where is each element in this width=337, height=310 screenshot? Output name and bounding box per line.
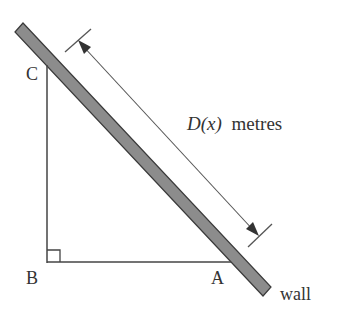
wall	[15, 23, 271, 296]
dimension-line	[82, 45, 255, 232]
ladder-wall-diagram: C B A wall D(x) metres	[0, 0, 337, 310]
label-wall: wall	[280, 284, 311, 304]
label-c: C	[26, 64, 38, 84]
label-a: A	[211, 268, 224, 288]
label-distance: D(x) metres	[186, 113, 282, 135]
right-angle-marker	[47, 250, 60, 262]
dimension-d-x	[65, 29, 272, 247]
distance-function: D(x)	[186, 113, 222, 135]
label-b: B	[26, 268, 38, 288]
wall-band	[15, 23, 271, 296]
distance-unit: metres	[232, 113, 283, 134]
